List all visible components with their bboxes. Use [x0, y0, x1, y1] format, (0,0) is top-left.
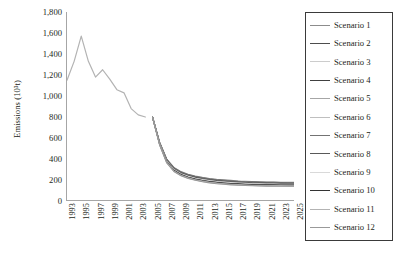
scenario-line	[153, 117, 295, 186]
legend: Scenario 1Scenario 2Scenario 3Scenario 4…	[305, 12, 393, 241]
x-tick-label: 1997	[98, 203, 106, 220]
legend-line-swatch	[310, 61, 330, 62]
legend-label: Scenario 6	[334, 113, 371, 122]
x-tick-label: 2017	[240, 203, 248, 220]
legend-item[interactable]: Scenario 6	[306, 108, 392, 126]
x-tick-label: 2003	[140, 203, 148, 220]
historical-line	[67, 36, 145, 117]
scenario-line	[153, 117, 295, 182]
x-tick-label: 2009	[183, 203, 191, 220]
scenario-line	[153, 117, 295, 185]
legend-line-swatch	[310, 190, 330, 191]
legend-item[interactable]: Scenario 11	[306, 200, 392, 218]
x-tick-label: 2005	[155, 203, 163, 220]
legend-item[interactable]: Scenario 9	[306, 163, 392, 181]
legend-line-swatch	[310, 172, 330, 173]
y-tick-label: 800	[49, 113, 62, 122]
x-tick-label: 1999	[112, 203, 120, 220]
x-tick-label: 2015	[226, 203, 234, 220]
y-tick-label: 1,600	[43, 29, 62, 38]
legend-line-swatch	[310, 80, 330, 81]
legend-item[interactable]: Scenario 8	[306, 145, 392, 163]
legend-item[interactable]: Scenario 4	[306, 71, 392, 89]
legend-label: Scenario 9	[334, 168, 371, 177]
legend-item[interactable]: Scenario 10	[306, 182, 392, 200]
x-tick-label: 2007	[169, 203, 177, 220]
y-tick-label: 400	[49, 155, 62, 164]
legend-label: Scenario 5	[334, 94, 371, 103]
y-tick-label: 1,800	[43, 8, 62, 17]
emissions-scenarios-chart: Emissions (10³t) 02004006008001,0001,200…	[0, 0, 398, 253]
plot-area	[66, 12, 294, 201]
y-tick-label: 200	[49, 176, 62, 185]
legend-label: Scenario 11	[334, 205, 375, 214]
x-tick-label: 1995	[83, 203, 91, 220]
x-tick-label: 2019	[254, 203, 262, 220]
scenario-line	[153, 117, 295, 183]
legend-label: Scenario 12	[334, 223, 375, 232]
legend-label: Scenario 2	[334, 39, 371, 48]
y-tick-label: 1,400	[43, 50, 62, 59]
legend-line-swatch	[310, 117, 330, 118]
y-axis-tick-labels: 02004006008001,0001,2001,4001,6001,800	[26, 12, 62, 201]
legend-item[interactable]: Scenario 7	[306, 126, 392, 144]
scenario-line	[153, 117, 295, 183]
x-tick-label: 2021	[269, 203, 277, 220]
scenario-line	[153, 117, 295, 185]
legend-line-swatch	[310, 209, 330, 210]
chart-lines	[67, 12, 294, 201]
legend-item[interactable]: Scenario 5	[306, 90, 392, 108]
legend-label: Scenario 4	[334, 76, 371, 85]
x-tick-label: 2023	[283, 203, 291, 220]
legend-item[interactable]: Scenario 1	[306, 16, 392, 34]
y-axis-title: Emissions (10³t)	[12, 49, 22, 169]
legend-label: Scenario 3	[334, 58, 371, 67]
x-tick-label: 2001	[126, 203, 134, 220]
legend-label: Scenario 7	[334, 131, 371, 140]
y-tick-label: 1,200	[43, 71, 62, 80]
y-tick-label: 600	[49, 134, 62, 143]
projection-series-group	[153, 117, 295, 186]
x-axis-tick-labels: 1993199519971999200120032005200720092011…	[66, 203, 294, 251]
scenario-line	[153, 117, 295, 185]
scenario-line	[153, 117, 295, 184]
x-tick-label: 2011	[197, 203, 205, 219]
legend-line-swatch	[310, 25, 330, 26]
x-tick-label: 1993	[69, 203, 77, 220]
legend-label: Scenario 1	[334, 21, 371, 30]
legend-item[interactable]: Scenario 3	[306, 53, 392, 71]
scenario-line	[153, 117, 295, 186]
legend-label: Scenario 8	[334, 150, 371, 159]
y-tick-label: 0	[58, 197, 62, 206]
legend-item[interactable]: Scenario 2	[306, 34, 392, 52]
legend-line-swatch	[310, 153, 330, 154]
scenario-line	[153, 117, 295, 183]
legend-item[interactable]: Scenario 12	[306, 218, 392, 236]
legend-line-swatch	[310, 135, 330, 136]
legend-label: Scenario 10	[334, 186, 375, 195]
y-tick-label: 1,000	[43, 92, 62, 101]
legend-line-swatch	[310, 43, 330, 44]
scenario-line	[153, 117, 295, 186]
scenario-line	[153, 117, 295, 184]
legend-line-swatch	[310, 227, 330, 228]
x-tick-label: 2013	[212, 203, 220, 220]
legend-line-swatch	[310, 98, 330, 99]
